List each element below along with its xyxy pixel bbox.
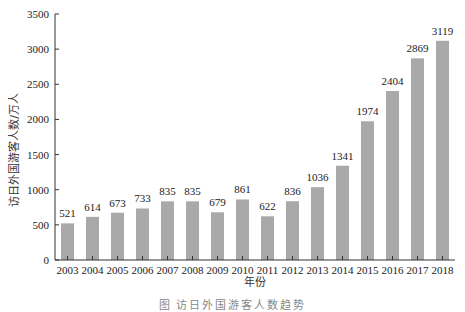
bar: [411, 58, 424, 260]
x-tick-label: 2014: [332, 264, 355, 276]
y-tick-label: 2500: [27, 78, 50, 90]
data-label: 733: [134, 192, 151, 204]
x-tick-label: 2018: [432, 264, 455, 276]
data-label: 836: [284, 185, 301, 197]
y-tick-label: 1500: [27, 149, 50, 161]
data-label: 835: [184, 185, 201, 197]
data-label: 835: [159, 185, 176, 197]
y-tick-label: 3000: [27, 43, 50, 55]
bars: 5216146737338358356798616228361036134119…: [59, 25, 454, 260]
y-tick-label: 500: [33, 219, 50, 231]
x-tick-label: 2013: [307, 264, 330, 276]
data-label: 673: [109, 197, 126, 209]
data-label: 1036: [307, 171, 330, 183]
data-label: 622: [259, 200, 276, 212]
x-tick-label: 2005: [107, 264, 130, 276]
bar: [361, 121, 374, 260]
y-axis-label: 访日外国游客人数/万人: [7, 93, 21, 207]
figure-caption: 图 访日外国游客人数趋势: [0, 296, 465, 312]
data-label: 614: [84, 201, 101, 213]
bar: [136, 208, 149, 260]
bar: [311, 187, 324, 260]
x-axis-label: 年份: [244, 275, 266, 289]
x-tick-label: 2009: [207, 264, 230, 276]
bar: [61, 223, 74, 260]
x-tick-label: 2017: [407, 264, 430, 276]
data-label: 521: [59, 207, 76, 219]
bar: [236, 199, 249, 260]
data-label: 2869: [407, 42, 430, 54]
data-label: 679: [209, 196, 226, 208]
x-tick-label: 2004: [82, 264, 105, 276]
bar: [286, 201, 299, 260]
y-tick-label: 1000: [27, 184, 50, 196]
bar: [386, 91, 399, 260]
bar: [186, 201, 199, 260]
data-label: 2404: [382, 75, 405, 87]
data-label: 3119: [432, 25, 454, 37]
bar: [436, 41, 449, 260]
bar: [261, 216, 274, 260]
x-tick-label: 2012: [282, 264, 304, 276]
bar: [111, 213, 124, 260]
x-tick-label: 2008: [182, 264, 205, 276]
y-tick-label: 2000: [27, 113, 50, 125]
bar: [336, 166, 349, 260]
bar: [86, 217, 99, 260]
x-tick-label: 2016: [382, 264, 405, 276]
data-label: 1341: [332, 150, 354, 162]
x-tick-label: 2011: [257, 264, 279, 276]
x-tick-label: 2010: [232, 264, 255, 276]
x-tick-label: 2006: [132, 264, 155, 276]
bar: [211, 212, 224, 260]
y-tick-label: 3500: [27, 8, 50, 20]
y-axis: 0500100015002000250030003500: [27, 8, 59, 266]
bar: [161, 201, 174, 260]
data-label: 1974: [357, 105, 380, 117]
x-tick-label: 2003: [57, 264, 80, 276]
x-tick-label: 2015: [357, 264, 380, 276]
data-label: 861: [234, 183, 251, 195]
y-tick-label: 0: [44, 254, 50, 266]
x-tick-label: 2007: [157, 264, 180, 276]
